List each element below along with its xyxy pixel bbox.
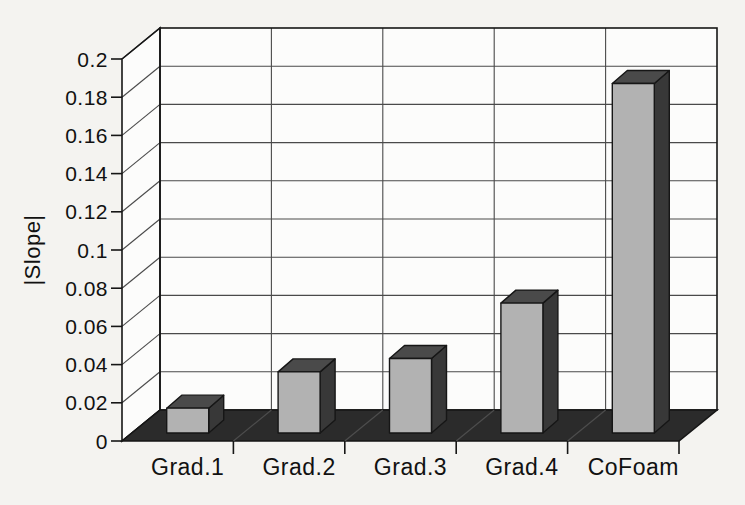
bar-grad4 <box>501 290 558 433</box>
scanned-page: 00.020.040.060.080.10.120.140.160.180.2G… <box>0 0 745 505</box>
category-label: Grad.3 <box>374 454 447 480</box>
bar-front-face <box>612 83 654 433</box>
y-tick-label: 0.04 <box>65 353 108 376</box>
bar-front-face <box>278 372 320 433</box>
bar-grad3 <box>390 346 447 433</box>
bar-front-face <box>501 303 543 433</box>
bar-side-face <box>654 70 669 433</box>
bar-front-face <box>167 408 209 433</box>
category-label: Grad.2 <box>262 454 335 480</box>
y-tick-label: 0 <box>96 430 108 453</box>
y-tick-label: 0.2 <box>77 48 108 71</box>
bar-cofoam <box>612 70 669 433</box>
y-tick-label: 0.1 <box>77 239 108 262</box>
y-tick-label: 0.06 <box>65 315 108 338</box>
y-axis-title: |Slope| <box>20 214 45 285</box>
bar-side-face <box>432 346 447 433</box>
category-label: Grad.4 <box>485 454 558 480</box>
y-tick-label: 0.14 <box>65 162 108 185</box>
y-tick-label: 0.16 <box>65 124 108 147</box>
y-tick-label: 0.02 <box>65 391 108 414</box>
chart-svg: 00.020.040.060.080.10.120.140.160.180.2G… <box>0 0 745 505</box>
slope-bar-chart: 00.020.040.060.080.10.120.140.160.180.2G… <box>0 0 745 505</box>
y-tick-label: 0.12 <box>65 200 108 223</box>
category-label: CoFoam <box>588 454 679 480</box>
bar-grad1 <box>167 395 224 433</box>
y-tick-label: 0.18 <box>65 86 108 109</box>
bar-side-face <box>543 290 558 433</box>
bar-grad2 <box>278 359 335 433</box>
category-label: Grad.1 <box>151 454 224 480</box>
y-tick-label: 0.08 <box>65 277 108 300</box>
bar-front-face <box>390 359 432 433</box>
